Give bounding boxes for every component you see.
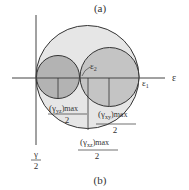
svg-text:(γxy)max: (γxy)max (98, 109, 127, 120)
svg-text:2: 2 (95, 151, 100, 161)
figure-label-b: (b) (94, 174, 107, 187)
svg-text:2: 2 (65, 115, 70, 125)
right-mohr-circle (80, 48, 139, 107)
svg-text:γ: γ (33, 149, 38, 159)
svg-text:(γxz)max: (γxz)max (80, 137, 109, 148)
y-axis-label: γ 2 (31, 149, 41, 171)
mohr-circle-diagram: (a) ε ε1 ε2 (γyz)max 2 (γxy)max 2 (γxz)m… (0, 0, 189, 190)
figure-label-a: (a) (94, 2, 107, 15)
svg-text:(γyz)max: (γyz)max (49, 103, 78, 114)
x-axis-label: ε (172, 72, 176, 83)
svg-text:2: 2 (113, 125, 118, 135)
svg-text:2: 2 (34, 161, 39, 171)
gamma-xz-max-half-label: (γxz)max 2 (78, 137, 118, 161)
eps1-label: ε1 (142, 78, 149, 89)
svg-text:ε1: ε1 (142, 78, 149, 89)
